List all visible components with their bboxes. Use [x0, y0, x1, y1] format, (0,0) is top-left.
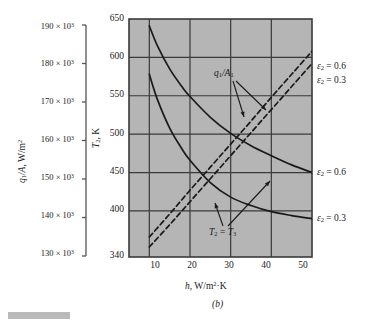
- left-axis-tick-190: 190 × 103: [12, 22, 74, 31]
- inner-axis-tick-340: 340: [96, 251, 124, 261]
- x-axis-tick-20: 20: [182, 261, 202, 271]
- x-axis-tick-40: 40: [256, 261, 276, 271]
- legend-dashed-eps-06: ε2 = 0.6: [317, 62, 346, 72]
- x-axis-tick-30: 30: [219, 261, 239, 271]
- plot-background: [129, 19, 312, 257]
- left-axis-tick-180: 180 × 103: [12, 59, 74, 68]
- figure-panel-b: 190 × 103 180 × 103 170 × 103 160 × 103 …: [0, 0, 371, 326]
- legend-dashed-eps-03: ε2 = 0.3: [317, 76, 346, 86]
- annotation-q1-over-a1: q1/A1: [214, 69, 234, 79]
- chart-canvas: [0, 0, 371, 326]
- inner-axis-tick-400: 400: [96, 205, 124, 215]
- left-axis-title: q1/A, W/m2: [17, 140, 28, 183]
- inner-axis-tick-450: 450: [96, 167, 124, 177]
- left-bracket-axis: [82, 25, 86, 256]
- panel-label: (b): [212, 300, 223, 310]
- annotation-t2-equals-t3: T2 = T3: [209, 228, 236, 238]
- legend-solid-eps-06: ε2 = 0.6: [317, 168, 346, 178]
- x-axis-title: h, W/m2·K: [185, 281, 227, 291]
- x-axis-tick-10: 10: [145, 261, 165, 271]
- inner-axis-title: T2, K: [92, 128, 102, 148]
- legend-solid-eps-03: ε2 = 0.3: [317, 214, 346, 224]
- page-artifact-bar: [8, 312, 70, 319]
- x-axis-tick-50: 50: [293, 261, 313, 271]
- inner-axis-tick-550: 550: [96, 90, 124, 100]
- left-axis-tick-130: 130 × 103: [12, 249, 74, 258]
- inner-axis-tick-600: 600: [96, 52, 124, 62]
- left-axis-tick-140: 140 × 103: [12, 211, 74, 220]
- left-axis-tick-170: 170 × 103: [12, 97, 74, 106]
- inner-axis-tick-650: 650: [96, 14, 124, 24]
